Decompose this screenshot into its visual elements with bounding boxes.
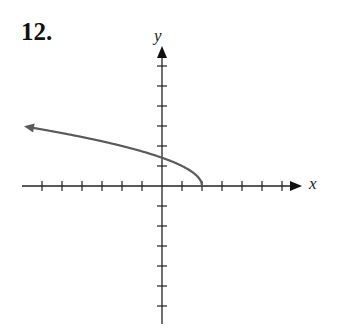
function-curve [30, 127, 202, 186]
curve-arrow-icon [24, 124, 35, 133]
x-axis-arrow-icon [290, 181, 302, 191]
axes [22, 46, 302, 324]
coordinate-plane [0, 0, 341, 334]
y-axis-arrow-icon [157, 46, 167, 58]
